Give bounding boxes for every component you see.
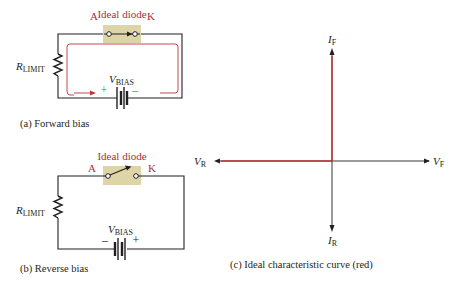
y-positive-label: IF [327, 33, 337, 47]
y-negative-label: IR [327, 234, 338, 248]
reverse-bias-circuit: Ideal diode A K RLIMIT VBIAS – + (b) Rev… [15, 150, 184, 275]
caption-reverse: (b) Reverse bias [20, 263, 88, 275]
resistor-icon [54, 54, 62, 76]
source-label: VBIAS [109, 73, 134, 87]
minus-sign: – [131, 83, 139, 97]
resistor-label: RLIMIT [15, 60, 45, 74]
plus-sign: + [101, 83, 108, 97]
arrow-up-icon [330, 48, 335, 55]
anode-label: A [90, 10, 98, 22]
diode-title: Ideal diode [97, 8, 146, 20]
anode-terminal-icon [106, 174, 111, 179]
battery-icon [117, 87, 127, 109]
caption-forward: (a) Forward bias [20, 118, 89, 130]
ideal-curve [221, 56, 332, 161]
minus-sign: – [101, 233, 109, 247]
x-positive-label: VF [433, 155, 445, 169]
resistor-label: RLIMIT [15, 204, 45, 218]
arrow-left-icon [214, 159, 220, 164]
circuit-wire [58, 176, 184, 249]
forward-bias-circuit: Ideal diode A K RLIMIT VBIAS + – (a) For… [15, 8, 182, 130]
diode-figure: Ideal diode A K RLIMIT VBIAS + – (a) For… [0, 0, 468, 285]
current-arrow-icon [90, 91, 96, 96]
resistor-icon [54, 196, 62, 218]
anode-label: A [88, 162, 96, 174]
battery-icon [115, 238, 125, 260]
characteristic-chart: VF VR IF IR (c) Ideal characteristic cur… [194, 33, 445, 271]
arrow-down-icon [330, 225, 335, 232]
plus-sign: + [133, 233, 140, 247]
source-label: VBIAS [108, 223, 133, 237]
caption-curve: (c) Ideal characteristic curve (red) [230, 259, 373, 271]
cathode-terminal-icon [134, 174, 139, 179]
cathode-label: K [147, 10, 155, 22]
current-flow-path [67, 44, 178, 95]
anode-terminal-icon [107, 32, 112, 37]
cathode-terminal-icon [133, 32, 138, 37]
x-negative-label: VR [194, 155, 207, 169]
arrow-right-icon [424, 159, 430, 164]
cathode-label: K [148, 162, 156, 174]
diode-title: Ideal diode [97, 150, 146, 162]
